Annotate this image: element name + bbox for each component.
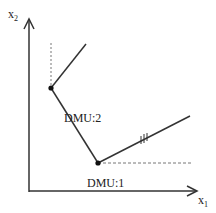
- x-axis-label: x1: [198, 193, 208, 209]
- dea-isoquant-diagram: DMU:2 DMU:1 x2 x1: [0, 0, 216, 213]
- point-dmu-2: [48, 85, 53, 90]
- point-dmu-1: [95, 160, 100, 165]
- y-axis-label: x2: [8, 7, 18, 23]
- frontier-upper-segment: [51, 44, 86, 88]
- label-dmu-1: DMU:1: [87, 176, 124, 190]
- frontier-middle-segment: [51, 88, 98, 163]
- label-dmu-2: DMU:2: [64, 111, 101, 125]
